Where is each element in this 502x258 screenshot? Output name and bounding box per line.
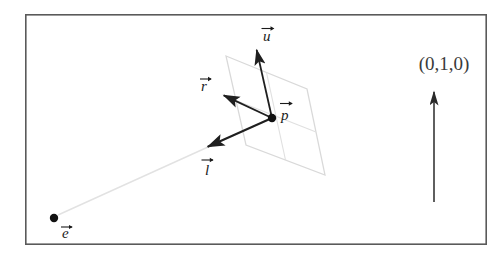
vector-diagram-canvas: u r l p e (0,1,0) [0,0,502,258]
vector-r-label-text: r [201,78,207,94]
point-p [268,114,276,122]
point-p-label-text: p [280,107,289,123]
vector-l-label-text: l [205,162,209,178]
world-up-label: (0,1,0) [419,53,470,75]
vector-u-label-text: u [263,28,271,44]
figure-root: u r l p e (0,1,0) [0,0,502,258]
point-e [50,214,58,222]
